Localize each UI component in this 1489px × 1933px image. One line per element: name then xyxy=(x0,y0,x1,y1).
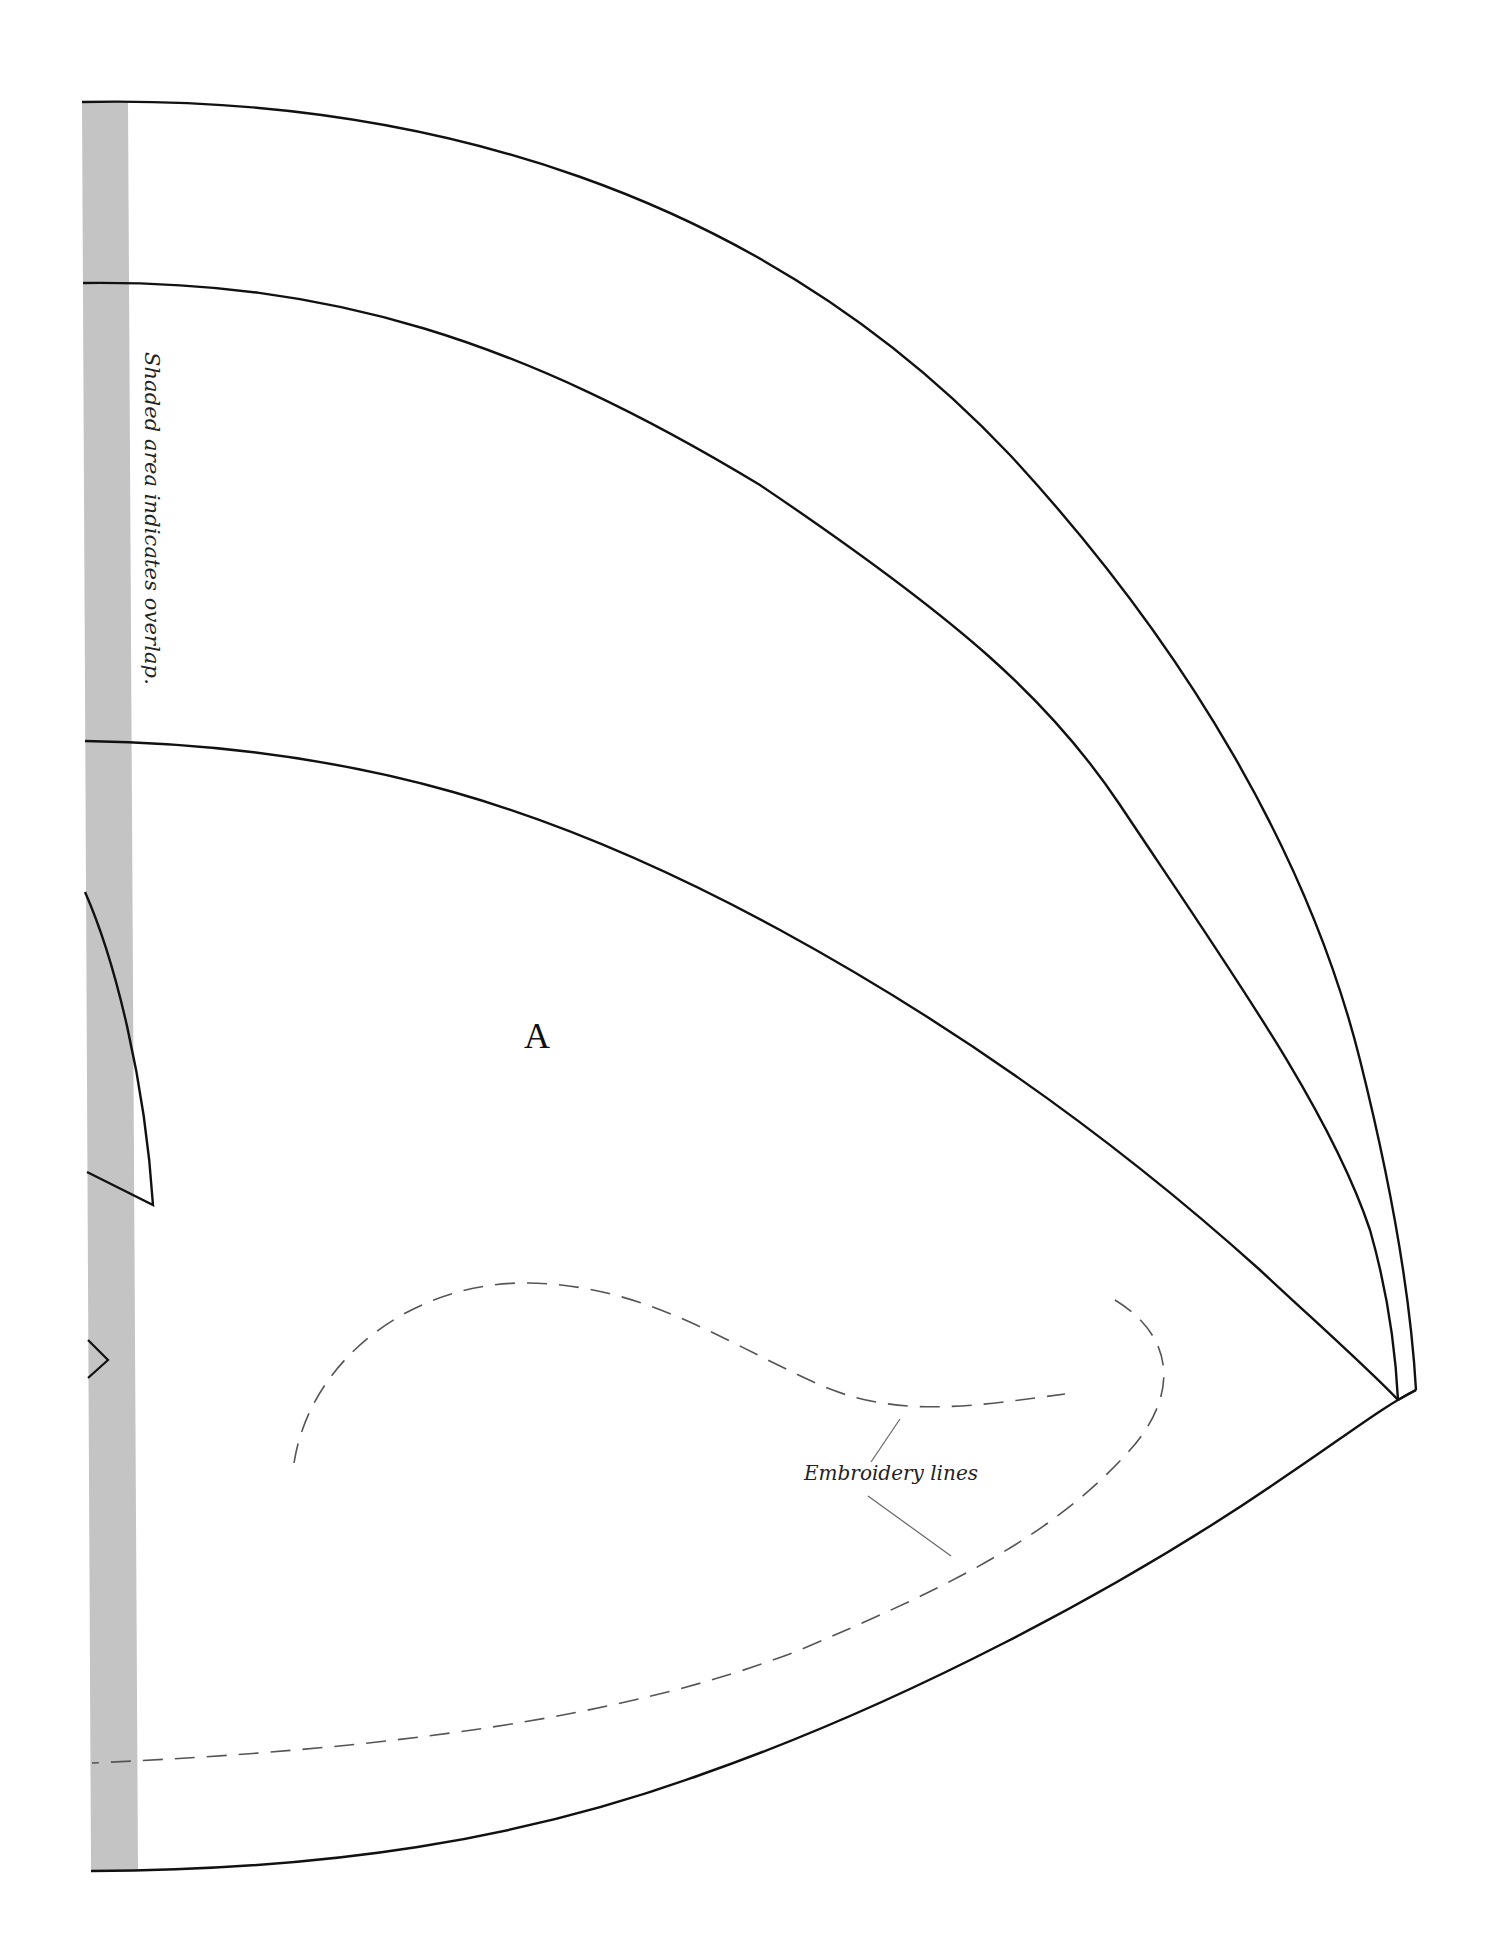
piece-a-bottom-seam-line xyxy=(91,1390,1416,1871)
outer-top-seam-line xyxy=(82,102,1416,1390)
piece-label: A xyxy=(524,1018,550,1054)
pattern-drawing xyxy=(0,0,1489,1933)
embroidery-leader-line-upper xyxy=(871,1419,900,1462)
overlap-note-text: Shaded area indicates overlap. xyxy=(140,352,164,685)
tip-closure-line xyxy=(1398,1390,1416,1400)
embroidery-leader-line-lower xyxy=(868,1496,951,1556)
middle-panel-seam-line xyxy=(83,283,1398,1400)
pattern-page: Shaded area indicates overlap. A Embroid… xyxy=(0,0,1489,1933)
overlap-shaded-strip xyxy=(82,102,138,1870)
embroidery-lines-label: Embroidery lines xyxy=(804,1463,978,1483)
piece-a-top-seam-line xyxy=(85,741,1398,1400)
embroidery-line-lower xyxy=(92,1300,1164,1763)
embroidery-line-upper xyxy=(294,1283,1065,1463)
